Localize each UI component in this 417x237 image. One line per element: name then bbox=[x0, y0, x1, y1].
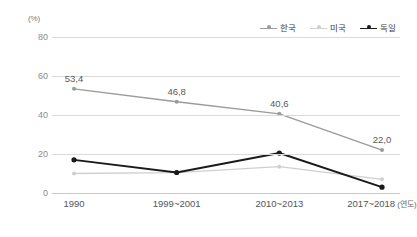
legend-dot-icon bbox=[317, 25, 321, 29]
legend-label: 미국 bbox=[330, 24, 346, 33]
x-axis-tick-2: 2010~2013 bbox=[255, 198, 303, 209]
data-point-독일-1 bbox=[174, 170, 179, 175]
legend-item-미국[interactable]: 미국 bbox=[310, 21, 346, 35]
x-axis-unit-label: (연도) bbox=[395, 200, 417, 209]
data-label-한국-2: 40,6 bbox=[270, 98, 289, 109]
x-axis-tick-3: 2017~2018 (연도) bbox=[347, 198, 416, 209]
gridline-60 bbox=[52, 76, 400, 77]
x-axis-tick-labels: 19901999~20012010~20132017~2018 (연도) bbox=[52, 198, 400, 222]
y-axis-tick-40: 40 bbox=[14, 110, 48, 120]
legend-marker-icon bbox=[310, 24, 327, 33]
y-axis-tick-labels: 806040200 bbox=[0, 0, 48, 237]
data-point-독일-3 bbox=[379, 185, 384, 190]
data-point-한국-1 bbox=[175, 100, 179, 104]
x-axis-tick-label: 2010~2013 bbox=[255, 198, 303, 209]
x-axis-tick-label: 1999~2001 bbox=[153, 198, 201, 209]
gridline-40 bbox=[52, 115, 400, 116]
gridline-20 bbox=[52, 154, 400, 155]
x-axis-tick-label: 2017~2018 bbox=[347, 198, 395, 209]
series-line-한국 bbox=[74, 89, 382, 150]
x-axis-tick-0: 1990 bbox=[63, 198, 84, 209]
data-point-한국-3 bbox=[380, 148, 384, 152]
legend-marker-icon bbox=[260, 24, 277, 33]
series-line-미국 bbox=[74, 167, 382, 180]
data-label-한국-1: 46,8 bbox=[167, 86, 186, 97]
y-axis-tick-60: 60 bbox=[14, 71, 48, 81]
legend-dot-icon bbox=[267, 25, 271, 29]
y-axis-tick-20: 20 bbox=[14, 149, 48, 159]
legend-dot-icon bbox=[367, 25, 371, 29]
chart-legend: 한국미국독일 bbox=[260, 21, 396, 35]
x-axis-tick-1: 1999~2001 bbox=[153, 198, 201, 209]
data-point-미국-2 bbox=[277, 165, 281, 169]
data-point-미국-3 bbox=[380, 177, 384, 181]
data-point-한국-0 bbox=[72, 87, 76, 91]
legend-item-한국[interactable]: 한국 bbox=[260, 21, 296, 35]
data-label-한국-0: 53,4 bbox=[65, 73, 84, 84]
plot-area: 53,446,840,622,0 bbox=[52, 37, 400, 193]
y-axis-tick-80: 80 bbox=[14, 32, 48, 42]
data-label-한국-3: 22,0 bbox=[373, 134, 392, 145]
data-point-독일-0 bbox=[71, 157, 76, 162]
legend-label: 독일 bbox=[380, 24, 396, 33]
gridline-0 bbox=[52, 193, 400, 194]
legend-label: 한국 bbox=[280, 24, 296, 33]
data-point-미국-0 bbox=[72, 172, 76, 176]
legend-item-독일[interactable]: 독일 bbox=[360, 21, 396, 35]
gridline-80 bbox=[52, 37, 400, 38]
x-axis-tick-label: 1990 bbox=[63, 198, 84, 209]
y-axis-tick-0: 0 bbox=[14, 188, 48, 198]
legend-marker-icon bbox=[360, 24, 377, 33]
